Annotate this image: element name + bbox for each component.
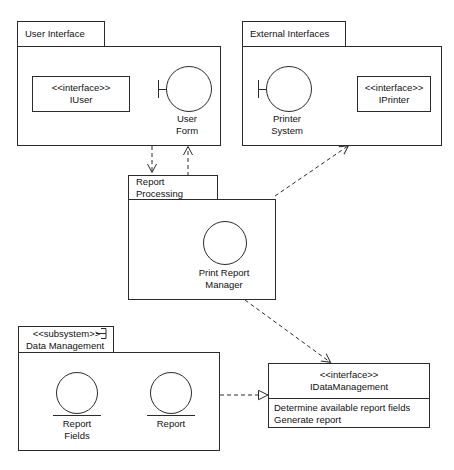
interface-box-iprinter[interactable]: <<interface>> IPrinter [357, 76, 431, 112]
interface-name-idatamanagement: IDataManagement [271, 381, 427, 393]
report-fields-label: Report Fields [43, 418, 111, 441]
report-fields-label-line2: Fields [43, 430, 111, 442]
interface-stereotype-iuser: <<interface>> [35, 82, 127, 94]
report-underline [147, 415, 195, 416]
interface-stereotype-iprinter: <<interface>> [360, 82, 428, 94]
component-diagram-canvas: User Interface <<interface>> IUser User … [0, 0, 454, 470]
package-stereotype-data-management: <<subsystem>> [33, 328, 101, 340]
report-fields-underline [53, 415, 101, 416]
printer-system-label-line1: Printer [254, 113, 320, 125]
package-label-user-interface: User Interface [25, 28, 85, 40]
print-report-manager-label: Print Report Manager [184, 267, 264, 290]
report-circle [150, 372, 192, 414]
user-form-label-line1: User [156, 113, 218, 125]
component-report[interactable]: Report [140, 370, 202, 436]
user-form-label-line2: Form [156, 125, 218, 137]
interface-stereotype-idatamanagement: <<interface>> [271, 369, 427, 381]
interface-head-iuser: <<interface>> IUser [33, 77, 129, 111]
subsystem-fork-icon [95, 327, 109, 340]
interface-box-iuser[interactable]: <<interface>> IUser [32, 76, 130, 112]
interface-name-iuser: IUser [35, 94, 127, 106]
print-report-manager-label-line2: Manager [184, 279, 264, 291]
user-form-circle [166, 66, 212, 112]
package-tab-report-processing[interactable]: Report Processing [128, 175, 218, 200]
report-fields-label-line1: Report [43, 418, 111, 430]
package-label-report-processing: Report Processing [136, 176, 211, 199]
report-label-line1: Report [137, 418, 205, 430]
component-user-form[interactable]: User Form [158, 62, 214, 130]
package-label-external-interfaces: External Interfaces [250, 28, 329, 40]
interface-operations-idatamanagement: Determine available report fields Genera… [269, 398, 429, 430]
report-label: Report [137, 418, 205, 430]
printer-system-circle [266, 66, 312, 112]
component-report-fields[interactable]: Report Fields [46, 370, 108, 436]
interface-head-idatamanagement: <<interface>> IDataManagement [269, 364, 429, 398]
interface-box-idatamanagement[interactable]: <<interface>> IDataManagement Determine … [268, 363, 430, 428]
print-report-manager-label-line1: Print Report [184, 267, 264, 279]
interface-head-iprinter: <<interface>> IPrinter [358, 77, 430, 111]
interface-name-iprinter: IPrinter [360, 94, 428, 106]
package-label-data-management: Data Management [26, 340, 104, 352]
package-tab-user-interface[interactable]: User Interface [17, 21, 105, 47]
package-tab-external-interfaces[interactable]: External Interfaces [242, 21, 346, 47]
interface-operation: Determine available report fields [274, 402, 425, 414]
interface-operation: Generate report [274, 414, 425, 426]
connector-reportprocessing-to-idatamanagement [245, 300, 330, 362]
printer-system-label: Printer System [254, 113, 320, 136]
print-report-manager-circle [203, 221, 247, 265]
component-print-report-manager[interactable]: Print Report Manager [189, 216, 259, 286]
connector-reportprocessing-to-external [275, 146, 348, 196]
component-printer-system[interactable]: Printer System [258, 62, 314, 130]
user-form-label: User Form [156, 113, 218, 136]
report-fields-circle [56, 372, 98, 414]
printer-system-label-line2: System [254, 125, 320, 137]
